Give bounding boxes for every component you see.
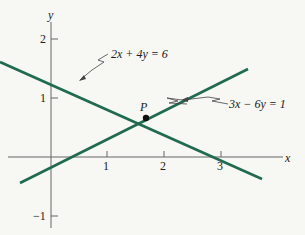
equation-label-1: 2x + 4y = 6	[111, 47, 168, 61]
point-label-p: P	[139, 100, 148, 114]
y-tick-label-2: 2	[40, 32, 46, 46]
y-tick-label-neg1: −1	[33, 209, 46, 223]
intersection-point	[143, 115, 149, 121]
x-tick-label-1: 1	[103, 159, 109, 173]
y-tick-label-1: 1	[40, 91, 46, 105]
line-2x-plus-4y-eq-6	[0, 62, 262, 179]
x-axis-label: x	[284, 151, 291, 165]
graph-canvas: 1 2 3 2 1 −1 x y P 2x + 4y = 6 3x − 6y =…	[0, 0, 305, 235]
leader-arrow-2	[186, 104, 214, 106]
equation-label-2: 3x − 6y = 1	[228, 97, 286, 111]
x-tick-label-2: 2	[160, 159, 166, 173]
y-axis-label: y	[47, 8, 54, 22]
